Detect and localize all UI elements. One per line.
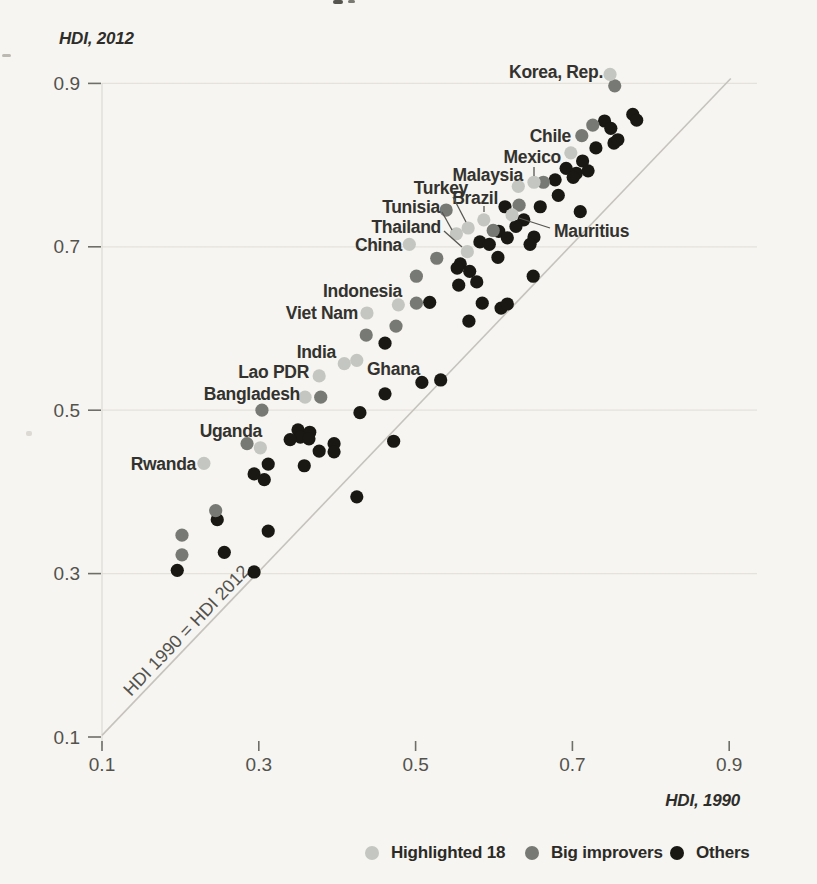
scan-artifact-2 [2,54,11,57]
y-tick-label-0.5: 0.5 [54,400,80,421]
point-others-12 [549,173,562,186]
legend-dot-highlighted-icon [365,846,379,860]
point-others-33 [476,297,489,310]
point-others-27 [451,261,464,274]
point-big-improvers-0 [608,79,621,92]
point-others-24 [483,238,496,251]
point-others-30 [470,275,483,288]
country-label-india: India [297,342,337,362]
legend-item-big-improvers: Big improvers [525,842,663,864]
legend-item-others: Others [670,842,750,864]
point-others-41 [353,406,366,419]
y-tick-label-0.3: 0.3 [54,563,80,584]
scatter-plot: 0.10.30.50.70.90.10.30.50.70.9HDI 1990 =… [0,0,817,884]
point-ghana [350,354,363,367]
point-india [338,357,351,370]
legend-label-highlighted: Highlighted 18 [391,843,505,863]
point-others-29 [452,279,465,292]
point-others-43 [350,490,363,503]
point-big-improvers-12 [314,391,327,404]
x-tick-label-0.9: 0.9 [716,754,742,775]
point-mexico [527,176,540,189]
point-others-55 [258,473,271,486]
point-rwanda [197,457,210,470]
point-viet-nam [360,306,373,319]
y-tick-label-0.7: 0.7 [54,236,80,257]
x-tick-label-0.7: 0.7 [559,754,585,775]
country-label-tunisia: Tunisia [382,197,440,217]
point-others-25 [491,251,504,264]
country-label-mauritius: Mauritius [554,221,630,241]
point-others-10 [581,164,594,177]
point-others-39 [434,373,447,386]
point-others-4 [589,141,602,154]
point-others-50 [313,444,326,457]
point-mauritius [505,208,518,221]
country-label-mexico: Mexico [503,147,561,167]
country-label-bangladesh: Bangladesh [204,384,300,404]
point-others-37 [378,337,391,350]
point-others-53 [262,458,275,471]
point-big-improvers-2 [575,129,588,142]
figure-container: HDI, 2012 0.10.30.50.70.90.10.30.50.70.9… [0,0,817,884]
point-others-40 [378,387,391,400]
point-others-42 [387,435,400,448]
point-others-58 [218,546,231,559]
point-uganda [254,441,267,454]
legend-item-highlighted: Highlighted 18 [365,842,505,864]
country-label-ghana: Ghana [367,359,421,379]
point-others-51 [327,445,340,458]
scan-artifact-1 [348,0,355,3]
y-tick-label-0.9: 0.9 [54,73,80,94]
point-others-20 [501,231,514,244]
point-others-18 [509,220,522,233]
point-lao-pdr [313,369,326,382]
x-tick-label-0.5: 0.5 [402,754,428,775]
x-tick-label-0.1: 0.1 [89,754,115,775]
point-big-improvers-16 [175,529,188,542]
point-big-improvers-1 [586,118,599,131]
legend-label-others: Others [696,843,750,863]
point-others-52 [298,459,311,472]
point-others-14 [574,205,587,218]
point-others-36 [462,315,475,328]
point-big-improvers-15 [209,504,222,517]
x-axis-title: HDI, 1990 [665,791,740,811]
point-others-60 [247,565,260,578]
point-big-improvers-11 [360,328,373,341]
point-others-15 [534,200,547,213]
x-tick-label-0.3: 0.3 [246,754,272,775]
country-label-turkey: Turkey [414,178,469,198]
point-big-improvers-13 [255,404,268,417]
point-big-improvers-8 [410,270,423,283]
point-korea-rep- [603,68,616,81]
point-others-6 [611,133,624,146]
country-label-chile: Chile [530,126,572,146]
country-label-korea-rep-: Korea, Rep. [509,62,603,82]
point-big-improvers-7 [430,252,443,265]
point-others-47 [302,432,315,445]
country-label-rwanda: Rwanda [131,454,197,474]
country-label-uganda: Uganda [200,421,263,441]
y-tick-label-0.1: 0.1 [54,727,80,748]
point-others-35 [501,297,514,310]
point-big-improvers-6 [440,203,453,216]
country-label-thailand: Thailand [371,217,441,237]
identity-line-label: HDI 1990 = HDI 2012 [119,561,253,700]
point-big-improvers-10 [389,319,402,332]
point-others-48 [284,433,297,446]
scan-artifact-0 [333,0,343,4]
point-bangladesh [298,391,311,404]
point-others-22 [523,238,536,251]
point-big-improvers-17 [175,548,188,561]
point-turkey [462,221,475,234]
country-label-viet-nam: Viet Nam [286,303,358,323]
point-china [403,238,416,251]
country-label-lao-pdr: Lao PDR [238,362,309,382]
point-others-13 [552,189,565,202]
country-label-china: China [355,235,403,255]
legend: Highlighted 18 Big improvers Others [0,842,817,864]
point-brazil [477,213,490,226]
point-chile [564,146,577,159]
country-label-indonesia: Indonesia [323,281,403,301]
